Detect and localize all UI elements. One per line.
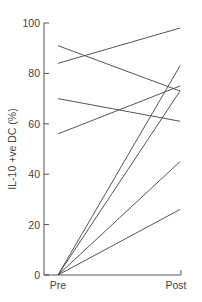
series-line — [58, 86, 180, 134]
series-line — [58, 91, 180, 275]
series-line — [58, 46, 180, 91]
y-axis-title: IL-10 +ve DC (%) — [6, 108, 18, 189]
data-lines — [58, 28, 180, 275]
y-tick-label: 40 — [28, 168, 40, 180]
series-line — [58, 209, 180, 275]
y-tick-label: 60 — [28, 118, 40, 130]
chart: 020406080100PrePost IL-10 +ve DC (%) — [0, 0, 202, 302]
x-tick-label: Pre — [50, 279, 67, 291]
series-line — [58, 162, 180, 275]
y-tick-label: 0 — [34, 269, 40, 281]
y-tick-label: 80 — [28, 67, 40, 79]
y-tick-label: 100 — [22, 17, 40, 29]
series-line — [58, 28, 180, 63]
x-tick-label: Post — [165, 279, 186, 291]
y-tick-label: 20 — [28, 219, 40, 231]
series-line — [58, 66, 180, 275]
